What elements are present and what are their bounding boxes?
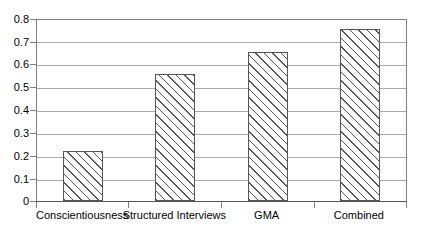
bar: [340, 29, 380, 201]
y-axis-tick-label: 0.6: [0, 59, 29, 70]
y-axis-tick-label: 0.4: [0, 105, 29, 116]
bar-chart: 0.8 0.7 0.6 0.5 0.4 0.3 0.2 0.1 0: [0, 0, 422, 233]
y-axis-tick-label: 0.7: [0, 37, 29, 48]
x-axis-category-label: Combined: [334, 208, 384, 222]
y-axis-tick-label: 0.8: [0, 14, 29, 25]
bar: [248, 52, 288, 201]
x-axis-category-label: Conscientiousness: [36, 208, 128, 222]
bar: [63, 151, 103, 201]
bar: [155, 74, 195, 201]
y-axis-tick-label: 0.2: [0, 151, 29, 162]
y-axis-tick-label: 0.5: [0, 82, 29, 93]
bars-layer: [37, 20, 406, 201]
y-axis-tick-labels: 0.8 0.7 0.6 0.5 0.4 0.3 0.2 0.1 0: [0, 0, 29, 233]
plot-area: [36, 19, 407, 202]
y-axis-tick-label: 0.3: [0, 128, 29, 139]
x-axis-category-label: GMA: [254, 208, 279, 222]
y-axis-tick-label: 0.1: [0, 174, 29, 185]
x-axis-category-label: Structured Interviews: [123, 208, 226, 222]
y-axis-tick-label: 0: [0, 196, 29, 207]
x-axis-category-labels: ConscientiousnessStructured InterviewsGM…: [36, 208, 407, 228]
